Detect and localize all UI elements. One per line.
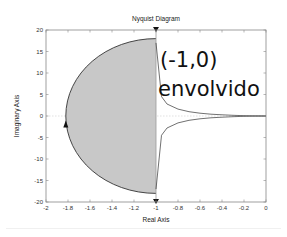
y-tick-label: 10 [36,70,43,76]
plot-area [46,27,266,204]
x-axis-label: Real Axis [142,216,170,223]
y-tick-label: 20 [36,27,43,33]
x-tick-label: -0.2 [239,205,250,211]
x-tick-label: -0.6 [195,205,206,211]
x-tick-label: -0.8 [173,205,184,211]
x-tick-label: 0 [264,205,268,211]
annotation-text: envolvido [158,77,260,101]
x-tick-label: -0.4 [217,205,228,211]
chart-title: Nyquist Diagram [132,15,180,23]
y-tick-label: -10 [34,156,43,162]
x-tick-label: -2 [43,205,49,211]
nyquist-chart: Nyquist Diagram -2-1.8-1.6-1.4-1.2-1-0.8… [0,0,287,237]
y-axis-label: Imaginary Axis [13,94,21,137]
y-tick-label: -15 [34,178,43,184]
x-tick-label: -1 [153,205,159,211]
x-tick-label: -1.8 [63,205,74,211]
y-tick-label: -5 [38,135,44,141]
y-tick-label: 15 [36,49,43,55]
y-tick-label: 0 [40,113,44,119]
annotation-point: (-1,0) [160,48,217,72]
x-tick-label: -1.6 [85,205,96,211]
nyquist-curve-lower [156,116,266,189]
x-tick-label: -1.2 [129,205,140,211]
divider [6,228,281,229]
y-tick-label: 5 [40,92,44,98]
x-tick-label: -1.4 [107,205,118,211]
y-tick-label: -20 [34,199,43,205]
